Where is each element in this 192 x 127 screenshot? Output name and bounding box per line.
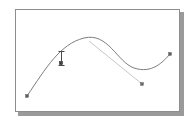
path-node-selected[interactable] xyxy=(59,61,62,64)
path-node-start[interactable] xyxy=(26,95,29,98)
bezier-path[interactable] xyxy=(27,37,170,96)
path-node-end[interactable] xyxy=(169,53,172,56)
curve-canvas-svg[interactable] xyxy=(16,10,180,112)
app-root xyxy=(0,0,192,127)
path-node-control-handle[interactable] xyxy=(141,83,144,86)
control-handle-line[interactable] xyxy=(89,41,142,84)
drawing-canvas[interactable] xyxy=(15,9,180,112)
